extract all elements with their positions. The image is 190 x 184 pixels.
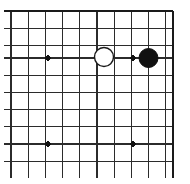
black-stone	[139, 49, 158, 68]
go-board-diagram	[0, 0, 190, 184]
go-board-canvas	[0, 0, 190, 184]
star-point-upper-left	[45, 55, 50, 60]
star-point-lower-right	[130, 141, 135, 146]
star-point-lower-left	[45, 141, 50, 146]
white-stone	[95, 48, 114, 67]
star-point-upper-right	[130, 55, 135, 60]
